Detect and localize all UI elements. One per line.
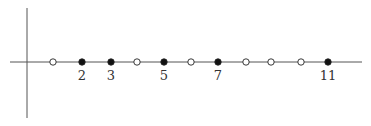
point-label-2: 2 <box>78 68 86 83</box>
point-label-11: 11 <box>320 68 337 83</box>
filled-point-2 <box>79 59 85 65</box>
open-point-10 <box>298 59 304 65</box>
open-point-9 <box>268 59 274 65</box>
labels-group: 235711 <box>78 68 336 83</box>
point-label-5: 5 <box>160 68 168 83</box>
filled-point-7 <box>215 59 221 65</box>
filled-point-11 <box>325 59 331 65</box>
open-point-6 <box>188 59 194 65</box>
open-point-1 <box>50 59 56 65</box>
filled-point-3 <box>108 59 114 65</box>
point-label-3: 3 <box>107 68 115 83</box>
point-label-7: 7 <box>214 68 222 83</box>
open-point-8 <box>243 59 249 65</box>
open-point-4 <box>134 59 140 65</box>
filled-point-5 <box>161 59 167 65</box>
number-line-diagram: 235711 <box>0 0 371 126</box>
